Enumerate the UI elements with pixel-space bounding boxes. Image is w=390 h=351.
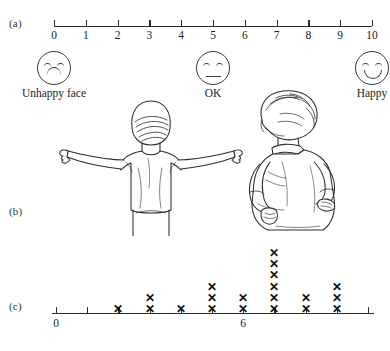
- dot-plot-x-mark: ✕: [301, 303, 311, 315]
- child-hands-on-hips-side-view: [228, 86, 358, 236]
- rating-scale-tick: [149, 20, 150, 26]
- figures-panel: [0, 86, 390, 236]
- rating-scale-label-3: 3: [147, 29, 153, 41]
- dot-plot-x-mark: ✕: [207, 303, 217, 315]
- rating-scale-tick: [277, 20, 278, 26]
- rating-scale-axis-line: [54, 26, 372, 27]
- rating-scale-tick: [181, 20, 182, 26]
- rating-scale-panel: 012345678910 Unhappy face OK Happy: [0, 0, 390, 100]
- dot-plot-x-mark: ✕: [269, 303, 279, 315]
- eye-icon: [57, 63, 64, 67]
- dot-plot-x-mark: ✕: [238, 303, 248, 315]
- sad-face-icon: [37, 51, 71, 85]
- dot-plot-x-mark: ✕: [269, 292, 279, 304]
- rating-scale-label-8: 8: [306, 29, 312, 41]
- rating-scale-tick: [86, 20, 87, 26]
- eye-icon: [375, 63, 382, 67]
- rating-scale-tick: [213, 20, 214, 26]
- rating-scale-tick: [245, 20, 246, 26]
- rating-scale-label-10: 10: [366, 29, 378, 41]
- dot-plot-panel: 06 ✕✕✕✕✕✕✕✕✕✕✕✕✕✕✕✕✕✕✕✕: [0, 215, 390, 351]
- dot-plot-tick: [56, 307, 57, 313]
- flat-mouth-icon: [206, 76, 221, 77]
- neutral-face-icon: [196, 51, 230, 85]
- rating-scale-label-7: 7: [274, 29, 280, 41]
- dot-plot-x-mark: ✕: [332, 303, 342, 315]
- rating-scale-tick: [54, 20, 55, 26]
- rating-scale-tick: [372, 20, 373, 26]
- rating-scale-label-1: 1: [83, 29, 89, 41]
- dot-plot-x-mark: ✕: [301, 292, 311, 304]
- dot-plot-x-mark: ✕: [269, 281, 279, 293]
- dot-plot-tick: [87, 307, 88, 313]
- dot-plot-label-0: 0: [53, 317, 59, 329]
- rating-scale-label-5: 5: [210, 29, 216, 41]
- rating-scale-label-0: 0: [51, 29, 57, 41]
- dot-plot-x-mark: ✕: [269, 269, 279, 281]
- dot-plot-label-6: 6: [240, 317, 246, 329]
- smile-mouth-icon: [364, 70, 382, 79]
- eye-icon: [203, 63, 210, 67]
- eye-icon: [362, 63, 369, 67]
- frown-mouth-icon: [47, 67, 61, 75]
- rating-scale-tick: [308, 20, 309, 26]
- dot-plot-x-mark: ✕: [332, 292, 342, 304]
- dot-plot-x-mark: ✕: [207, 281, 217, 293]
- dot-plot-x-mark: ✕: [145, 292, 155, 304]
- child-arms-outstretched-back-view: [58, 88, 244, 236]
- dot-plot-x-mark: ✕: [269, 247, 279, 259]
- dot-plot-x-mark: ✕: [238, 292, 248, 304]
- rating-scale-label-6: 6: [242, 29, 248, 41]
- dot-plot-x-mark: ✕: [207, 292, 217, 304]
- rating-scale-tick: [118, 20, 119, 26]
- rating-scale-label-9: 9: [337, 29, 343, 41]
- dot-plot-x-mark: ✕: [332, 281, 342, 293]
- eye-icon: [44, 63, 51, 67]
- happy-face-icon: [355, 51, 389, 85]
- dot-plot-x-mark: ✕: [113, 303, 123, 315]
- dot-plot-tick: [368, 307, 369, 313]
- eye-icon: [216, 63, 223, 67]
- rating-scale-label-4: 4: [178, 29, 184, 41]
- rating-scale-tick: [340, 20, 341, 26]
- dot-plot-x-mark: ✕: [176, 303, 186, 315]
- dot-plot-x-mark: ✕: [145, 303, 155, 315]
- rating-scale-label-2: 2: [115, 29, 121, 41]
